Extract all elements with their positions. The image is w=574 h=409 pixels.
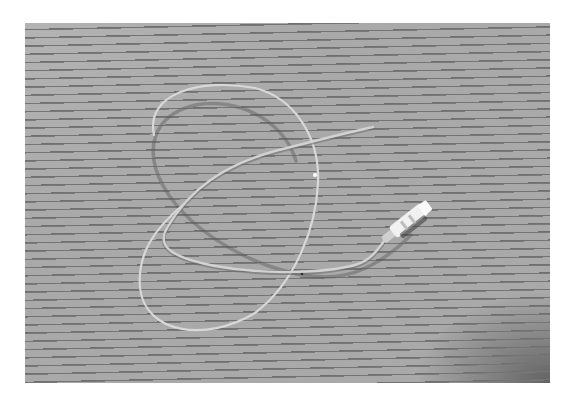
glint: [313, 173, 317, 177]
photo: [25, 23, 550, 383]
catheter-illustration: [25, 23, 550, 383]
small-speck: [301, 273, 304, 276]
connector-hub-icon: [379, 199, 436, 249]
main-tube-highlight: [164, 127, 387, 272]
